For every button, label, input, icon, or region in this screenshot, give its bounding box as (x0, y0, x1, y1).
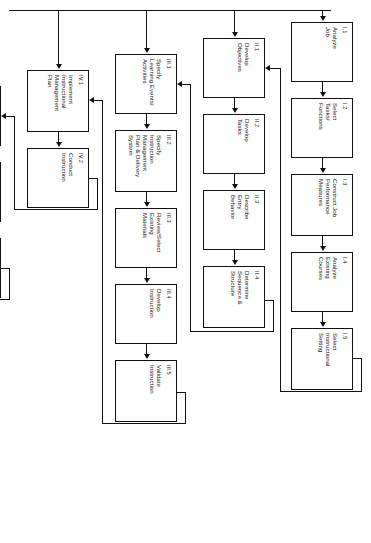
node-label: Implement Instructional Management Plan (47, 75, 76, 127)
connector-II3-II4 (234, 250, 235, 260)
feedback-IV2-down (14, 209, 98, 210)
connector-III2-III3 (146, 192, 147, 202)
node-id: I.5 (341, 333, 348, 385)
node-label: Develop Instruction (149, 289, 163, 339)
node-label: Select Tasks/ Functions (318, 103, 340, 153)
node-label: Construct Job Performance Measures (318, 179, 340, 231)
node-id: I.3 (341, 179, 348, 231)
feedback-II4-top (273, 300, 274, 332)
node-label: Validate Instruction (149, 365, 163, 417)
node-id: II.1 (253, 43, 260, 93)
feedback-IV2-drop (6, 116, 15, 117)
process-node-III-5[interactable]: III.5 Validate Instruction (115, 360, 177, 422)
process-node-III-2[interactable]: III.2 Specify Instruction Management Pla… (115, 130, 177, 192)
node-id: III.1 (165, 59, 172, 109)
connector-I1-I2 (322, 82, 323, 92)
feedback-III5-riser (177, 392, 186, 393)
feedback-I5-riser (353, 358, 362, 359)
node-id: II.3 (253, 195, 260, 245)
phase-entry-develop (146, 10, 147, 49)
node-label: Specify Instruction Management Plan & De… (127, 135, 163, 187)
process-node-II-2[interactable]: II.2 Develop Tasks (203, 114, 265, 174)
phase-entry-implement (58, 10, 59, 65)
node-id: IV.2 (77, 153, 84, 203)
process-node-III-3[interactable]: III.3 Review/Select Existing Materials (115, 208, 177, 268)
node-id: III.4 (165, 289, 172, 339)
process-node-III-4[interactable]: III.4 Develop Instruction (115, 284, 177, 344)
arrowhead-phase-analyze (320, 16, 326, 21)
arrowhead-II1-II2 (232, 108, 238, 113)
arrowhead-phase-design (232, 32, 238, 37)
process-node-I-3[interactable]: I.3 Construct Job Performance Measures (291, 174, 353, 236)
feedback-IV2-riser (89, 178, 98, 179)
feedback-I5-drop (270, 68, 281, 69)
arrowhead-III2-III3 (144, 202, 150, 207)
feedback-I5-down (280, 391, 362, 392)
process-node-II-1[interactable]: II.1 Develop Objectives (203, 38, 265, 98)
arrowhead-IV2-V1 (1, 113, 6, 119)
connector-III1-III2 (146, 114, 147, 124)
node-label: Develop Tasks (237, 119, 251, 169)
process-node-I-5[interactable]: I.5 Select Instructional Setting (291, 328, 353, 390)
arrowhead-III4-III5 (144, 354, 150, 359)
node-label: Determine Sequence & Structure (230, 271, 252, 323)
arrowhead-I3-I4 (320, 246, 326, 251)
arrowhead-phase-implement (56, 64, 62, 69)
feedback-III5-top (185, 392, 186, 424)
node-id: I.2 (341, 103, 348, 153)
feedback-IV2-to-V1 (14, 116, 15, 210)
feedback-III5-down (102, 423, 186, 424)
feedback-I5-to-II1 (280, 68, 281, 392)
arrowhead-III1-III2 (144, 124, 150, 129)
connector-II1-II2 (234, 98, 235, 108)
arrowhead-II2-II3 (232, 184, 238, 189)
arrowhead-phase-develop (144, 48, 150, 53)
process-node-I-4[interactable]: I.4 Analyze Existing Courses (291, 252, 353, 312)
diagram-rotation-stage: I.1 Analyze Job I.2 Select Tasks/ Functi… (0, 0, 371, 543)
arrowhead-I5-II1 (265, 65, 270, 71)
connector-III3-III4 (146, 268, 147, 278)
feedback-I5-top (361, 358, 362, 392)
node-label: Analyze Job (325, 27, 339, 77)
node-label: Describe Entry Behavior (230, 195, 252, 245)
connector-IV1-IV2 (58, 132, 59, 142)
feedback-V3-riser (1, 268, 10, 269)
feedback-II4-to-III1 (190, 84, 191, 332)
connector-II2-II3 (234, 174, 235, 184)
process-node-V-2-box[interactable]: V.2 Conduct External Evaluation (0, 162, 1, 222)
feedback-V3-top (9, 268, 10, 300)
node-id: III.3 (165, 213, 172, 263)
feedback-II4-drop (182, 84, 191, 85)
connector-I2-I3 (322, 158, 323, 168)
node-id: III.2 (165, 135, 172, 187)
process-node-III-1[interactable]: III.1 Specify Learning Events/ Activitie… (115, 54, 177, 114)
arrowhead-II3-II4 (232, 260, 238, 265)
process-node-IV-1[interactable]: IV.1 Implement Instructional Management … (27, 70, 89, 132)
arrowhead-IV1-IV2 (56, 142, 62, 147)
process-node-IV-2[interactable]: IV.2 Conduct Instruction (27, 148, 89, 208)
node-label: Select Instructional Setting (318, 333, 340, 385)
node-id: I.1 (341, 27, 348, 77)
process-node-II-3[interactable]: II.3 Describe Entry Behavior (203, 190, 265, 250)
connector-I4-I5 (322, 312, 323, 322)
process-node-I-2[interactable]: I.2 Select Tasks/ Functions (291, 98, 353, 158)
feedback-III5-to-IV1 (102, 100, 103, 424)
feedback-IV2-top (97, 178, 98, 210)
feedback-II4-riser (265, 300, 274, 301)
node-label: Conduct Instruction (61, 153, 75, 203)
process-node-II-4[interactable]: II.4 Determine Sequence & Structure (203, 266, 265, 328)
arrowhead-I2-I3 (320, 168, 326, 173)
node-id: II.4 (253, 271, 260, 323)
connector-III4-III5 (146, 344, 147, 354)
phase-entry-design (234, 10, 235, 33)
process-node-V-1-box[interactable]: V.1 Conduct Internal Evaluation (0, 86, 1, 146)
feedback-V3-down (0, 299, 10, 300)
process-node-I-1[interactable]: I.1 Analyze Job (291, 22, 353, 82)
isd-flowchart-canvas: I.1 Analyze Job I.2 Select Tasks/ Functi… (0, 0, 371, 543)
feedback-II4-down (190, 331, 274, 332)
arrowhead-I4-I5 (320, 322, 326, 327)
node-id: I.4 (341, 257, 348, 307)
arrowhead-III3-III4 (144, 278, 150, 283)
node-id: IV.1 (77, 75, 84, 127)
connector-I3-I4 (322, 236, 323, 246)
